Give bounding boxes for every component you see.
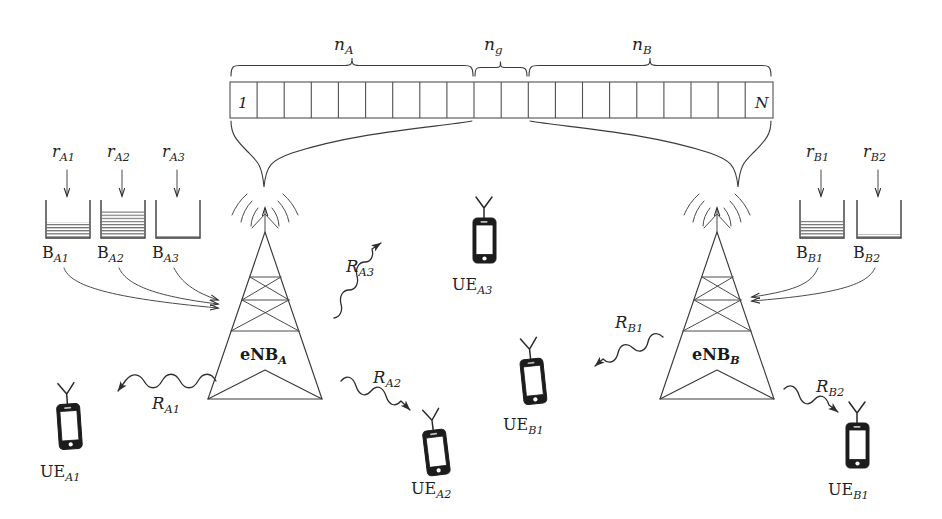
segment-label-nb: nB [632,34,652,57]
rate-arrow-a3: RA3 [334,243,381,318]
ue-a3[interactable] [473,197,496,263]
segment-braces [231,58,771,76]
buffer-a3: BA3 [152,200,200,265]
grid-to-enb-connectors [231,121,771,187]
ue-b1[interactable] [517,337,547,405]
enb-b-label: eNBB [692,345,740,367]
ue-a3-label: UEA3 [452,275,492,297]
buffer-label-a1: BA1 [42,243,69,265]
spectrum-grid: 1 N [230,82,773,118]
segment-label-ng: ng [484,34,503,57]
buffer-label-a2: BA2 [97,243,124,265]
buffer-b2: BB2 [853,200,901,265]
segment-label-na: nA [334,34,354,57]
buffer-a-to-enb-arrows [64,268,218,308]
buffer-label-b1: BB1 [796,243,823,265]
arrival-rate-label-b2: rB2 [863,142,886,164]
connector-to-enb-a [231,121,472,187]
buffer-b-to-enb-arrows [752,268,875,301]
arrival-rate-label-a2: rA2 [107,142,130,164]
buffer-a2: BA2 [97,200,145,265]
rate-arrow-b1: RB1 [595,313,663,366]
buffer-label-a3: BA3 [152,243,179,265]
diagram-svg: 1 N nA ng nB rA1 BA1 rA [0,0,942,519]
rate-label-a2: RA2 [372,368,401,390]
ue-a2[interactable] [420,408,451,476]
segment-labels: nA ng nB [334,34,652,57]
enb-a-label: eNBA [240,345,287,367]
ue-b2-label: UEB1 [828,480,869,502]
rate-label-b1: RB1 [614,313,643,335]
buffer-group-a: rA1 BA1 rA2 BA2 rA3 BA3 [42,142,218,308]
buffer-b1: BB1 [796,200,844,265]
rate-label-b2: RB2 [815,377,844,399]
arrival-rate-label-a1: rA1 [52,142,75,164]
rate-label-a1: RA1 [151,394,180,416]
rate-arrow-b2: RB2 [784,377,844,412]
arrival-rate-a1: rA1 [52,142,75,196]
ue-b2[interactable] [846,402,869,468]
buffer-label-b2: BB2 [853,243,880,265]
arrival-rate-b2: rB2 [863,142,886,196]
ue-a2-label: UEA2 [411,479,451,501]
arrival-rate-b1: rB1 [806,142,829,196]
ue-a1[interactable] [55,382,83,449]
figure-canvas: 1 N nA ng nB rA1 BA1 rA [0,0,942,519]
connector-to-enb-b [530,121,771,187]
arrival-rate-a3: rA3 [162,142,185,196]
ue-a1-label: UEA1 [40,462,80,484]
arrival-rate-a2: rA2 [107,142,130,196]
buffer-group-b: rB1 BB1 rB2 BB2 [752,142,901,301]
grid-first-block-label: 1 [238,94,248,112]
rate-arrow-a2: RA2 [341,368,410,410]
rate-arrow-a1: RA1 [118,374,216,416]
buffer-a1: BA1 [42,200,90,265]
ue-b1-label: UEB1 [503,415,544,437]
enb-a-tower[interactable]: eNBA [208,194,322,399]
arrival-rate-label-b1: rB1 [806,142,829,164]
arrival-rate-label-a3: rA3 [162,142,185,164]
grid-last-block-label: N [754,94,770,112]
